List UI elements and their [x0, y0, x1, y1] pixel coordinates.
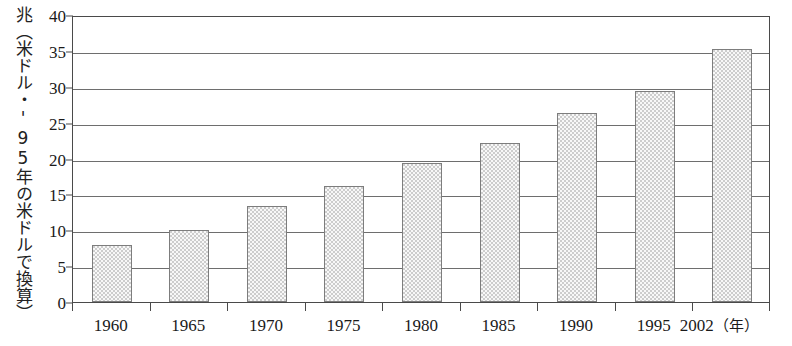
gridline [73, 53, 769, 54]
bar [169, 230, 209, 302]
x-axis-tick-label: 1960 [94, 315, 128, 337]
x-axis-tick-label: 1975 [326, 315, 360, 337]
x-axis-tick-label: 1965 [171, 315, 205, 337]
y-axis-label: 兆（米ドル・'95年の米ドルで換算） [2, 6, 32, 318]
x-axis-tick-mark [72, 303, 73, 311]
bar [557, 113, 597, 302]
x-axis-tick-mark [692, 303, 693, 311]
y-axis-tick-label: 0 [32, 295, 66, 312]
y-axis-tick-label: 35 [32, 43, 66, 60]
x-axis-tick-mark-group [72, 303, 770, 313]
x-axis-tick-mark [537, 303, 538, 311]
y-axis-tick-label: 30 [32, 79, 66, 96]
x-axis-unit-label: （年） [714, 317, 759, 335]
bar [92, 245, 132, 302]
bar-chart: 兆（米ドル・'95年の米ドルで換算） 0510152025303540 1960… [0, 0, 792, 346]
y-axis-tick-label: 25 [32, 115, 66, 132]
bar [480, 143, 520, 302]
plot-area [72, 16, 770, 303]
x-axis-tick-mark [305, 303, 306, 311]
y-axis-tick-label: 20 [32, 151, 66, 168]
bar [635, 91, 675, 302]
x-axis-tick-mark [769, 303, 770, 311]
y-axis-tick-label: 10 [32, 223, 66, 240]
bar [402, 163, 442, 302]
bar [324, 186, 364, 302]
x-axis-tick-mark [382, 303, 383, 311]
gridline [73, 89, 769, 90]
y-axis-tick-label: 40 [32, 8, 66, 25]
x-axis-tick-mark [615, 303, 616, 311]
x-axis-tick-mark [460, 303, 461, 311]
x-axis-tick-label: 1980 [404, 315, 438, 337]
x-axis-tick-label: 2002（年） [680, 315, 759, 337]
bar [247, 206, 287, 302]
x-axis-tick-mark [150, 303, 151, 311]
x-axis-tick-label: 1995 [637, 315, 671, 337]
y-axis-tick-label-group: 0510152025303540 [32, 0, 66, 346]
x-axis-tick-label-group: 196019651970197519801985199019952002（年） [72, 315, 792, 345]
x-axis-tick-label: 1990 [559, 315, 593, 337]
x-axis-tick-label: 1985 [482, 315, 516, 337]
x-axis-tick-mark [227, 303, 228, 311]
y-axis-tick-label: 15 [32, 187, 66, 204]
y-axis-tick-label: 5 [32, 259, 66, 276]
bar [712, 49, 752, 302]
x-axis-tick-label: 1970 [249, 315, 283, 337]
